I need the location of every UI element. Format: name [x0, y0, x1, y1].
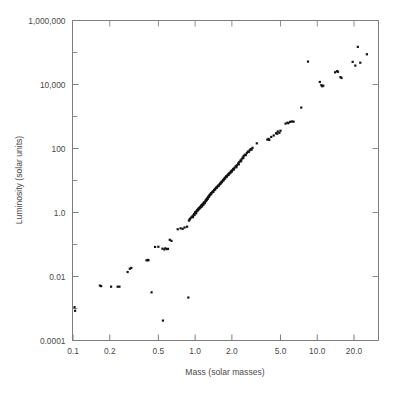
data-point — [284, 123, 286, 125]
data-point — [187, 296, 189, 298]
data-point — [352, 61, 354, 63]
data-point — [307, 60, 309, 62]
data-point — [186, 226, 188, 228]
data-point — [238, 163, 240, 165]
data-point — [278, 132, 280, 134]
x-tick-label: 10.0 — [309, 346, 326, 356]
data-point — [127, 271, 129, 273]
data-point — [270, 136, 272, 138]
data-point — [195, 212, 197, 214]
data-point — [240, 160, 242, 162]
data-point — [183, 226, 185, 228]
mass-luminosity-plot: 1,000,00010,0001001.00.010.0001 0.10.20.… — [0, 0, 403, 395]
data-point — [177, 228, 179, 230]
x-tick-label: 1.0 — [189, 346, 201, 356]
data-point — [157, 246, 159, 248]
data-point — [268, 139, 270, 141]
data-point — [130, 267, 132, 269]
y-tick-label: 10,000 — [40, 80, 66, 90]
data-point — [337, 71, 339, 73]
data-point — [242, 157, 244, 159]
data-point — [167, 248, 169, 250]
data-point — [319, 81, 321, 83]
data-point — [245, 154, 247, 156]
y-tick-label: 1,000,000 — [28, 16, 66, 26]
y-axis-title: Luminosity (solar units) — [14, 136, 24, 224]
scatter-chart: 1,000,00010,0001001.00.010.0001 0.10.20.… — [0, 0, 403, 395]
data-point — [366, 53, 368, 55]
data-point — [322, 85, 324, 87]
data-point — [235, 166, 237, 168]
data-point — [74, 310, 76, 312]
data-point — [110, 286, 112, 288]
data-point — [147, 259, 149, 261]
data-point — [340, 77, 342, 79]
data-point — [170, 240, 172, 242]
data-point — [359, 62, 361, 64]
data-point — [276, 133, 278, 135]
data-point — [154, 246, 156, 248]
x-tick-label: 2.0 — [226, 346, 238, 356]
data-point — [292, 121, 294, 123]
x-tick-label: 0.1 — [67, 346, 79, 356]
y-tick-label: 0.0001 — [40, 336, 66, 346]
x-tick-label: 0.2 — [104, 346, 116, 356]
data-point — [357, 46, 359, 48]
x-tick-label: 0.5 — [153, 346, 165, 356]
data-point — [256, 142, 258, 144]
data-point — [273, 134, 275, 136]
data-point — [182, 228, 184, 230]
x-axis-title: Mass (solar masses) — [185, 367, 264, 377]
x-tick-label: 20.0 — [346, 346, 363, 356]
data-point — [179, 227, 181, 229]
data-point — [279, 130, 281, 132]
data-point — [162, 319, 164, 321]
data-point — [161, 248, 163, 250]
data-point — [354, 64, 356, 66]
data-point — [100, 285, 102, 287]
data-point — [300, 106, 302, 108]
y-tick-label: 100 — [52, 144, 66, 154]
data-point — [118, 286, 120, 288]
data-point — [251, 147, 253, 149]
data-point — [150, 291, 152, 293]
x-tick-label: 5.0 — [275, 346, 287, 356]
y-tick-label: 1.0 — [54, 208, 66, 218]
data-point — [73, 306, 75, 308]
y-tick-label: 0.01 — [49, 272, 66, 282]
